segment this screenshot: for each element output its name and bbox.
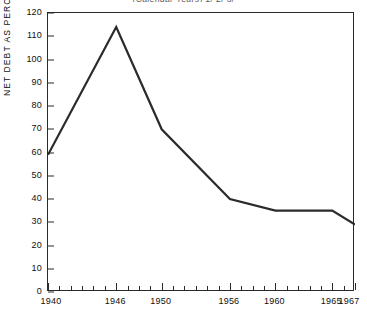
x-tick-mark-major — [355, 283, 356, 290]
x-tick-label: 1967 — [339, 296, 360, 306]
y-tick-mark — [48, 36, 54, 37]
y-tick-label: 60 — [16, 147, 42, 157]
x-tick-mark-minor — [344, 286, 345, 291]
y-tick-mark — [48, 129, 54, 130]
y-tick-label: 90 — [16, 77, 42, 87]
x-tick-mark-major — [116, 283, 117, 290]
y-tick-label: 50 — [16, 170, 42, 180]
y-tick-label: 70 — [16, 123, 42, 133]
x-tick-mark-minor — [253, 286, 254, 291]
y-tick-mark — [48, 106, 54, 107]
x-tick-mark-minor — [128, 286, 129, 291]
x-tick-mark-minor — [310, 286, 311, 291]
y-axis-title: NET DEBT AS PERCENT OF GNP — [2, 0, 12, 96]
y-tick-label: 100 — [16, 54, 42, 64]
x-tick-label: 1940 — [41, 296, 62, 306]
x-tick-mark-minor — [264, 286, 265, 291]
x-tick-mark-major — [162, 283, 163, 290]
x-tick-mark-minor — [105, 286, 106, 291]
x-tick-mark-minor — [82, 286, 83, 291]
y-tick-label: 80 — [16, 100, 42, 110]
x-tick-mark-minor — [93, 286, 94, 291]
y-tick-mark — [48, 152, 54, 153]
y-tick-label: 10 — [16, 263, 42, 273]
x-tick-mark-minor — [139, 286, 140, 291]
y-tick-label: 40 — [16, 193, 42, 203]
y-tick-label: 20 — [16, 240, 42, 250]
x-tick-mark-minor — [150, 286, 151, 291]
x-tick-label: 1960 — [264, 296, 285, 306]
plot-area — [47, 12, 354, 291]
y-tick-label: 30 — [16, 216, 42, 226]
y-tick-mark — [48, 199, 54, 200]
y-tick-label: 110 — [16, 30, 42, 40]
x-tick-mark-major — [275, 283, 276, 290]
x-tick-mark-major — [332, 283, 333, 290]
y-tick-mark — [48, 82, 54, 83]
x-tick-mark-minor — [196, 286, 197, 291]
line-series-net-debt — [48, 13, 355, 292]
chart-figure: (Calendar Years) 1/ 2/ 3/ NET DEBT AS PE… — [0, 0, 367, 319]
x-tick-mark-minor — [184, 286, 185, 291]
x-tick-mark-minor — [207, 286, 208, 291]
y-tick-mark — [48, 292, 54, 293]
x-tick-mark-minor — [59, 286, 60, 291]
x-tick-label: 1956 — [219, 296, 240, 306]
x-tick-mark-minor — [71, 286, 72, 291]
x-tick-mark-major — [48, 283, 49, 290]
x-tick-mark-major — [230, 283, 231, 290]
x-tick-mark-minor — [298, 286, 299, 291]
x-tick-mark-minor — [173, 286, 174, 291]
y-tick-mark — [48, 59, 54, 60]
y-tick-mark — [48, 222, 54, 223]
y-tick-label: 120 — [16, 7, 42, 17]
x-tick-label: 1950 — [150, 296, 171, 306]
chart-title: (Calendar Years) 1/ 2/ 3/ — [0, 0, 367, 2]
y-tick-mark — [48, 175, 54, 176]
x-tick-label: 1946 — [105, 296, 126, 306]
x-tick-mark-minor — [241, 286, 242, 291]
x-tick-mark-minor — [321, 286, 322, 291]
y-tick-label: 0 — [16, 286, 42, 296]
y-tick-mark — [48, 245, 54, 246]
y-tick-mark — [48, 13, 54, 14]
x-tick-mark-minor — [219, 286, 220, 291]
y-tick-mark — [48, 268, 54, 269]
x-tick-mark-minor — [287, 286, 288, 291]
